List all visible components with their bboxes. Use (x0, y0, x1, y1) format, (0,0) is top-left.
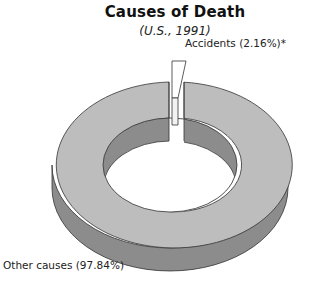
accidents-label: Accidents (2.16%)* (185, 37, 286, 49)
other-causes-label: Other causes (97.84%) (3, 259, 124, 271)
